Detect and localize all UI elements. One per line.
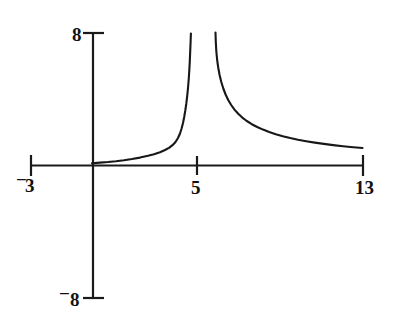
plot-canvas: − 3 5 13 8 − 8 xyxy=(0,0,396,334)
y-tick-label-8: 8 xyxy=(72,24,82,45)
curve-right-branch xyxy=(216,33,363,149)
curve-left-branch xyxy=(92,34,191,164)
x-tick-label-13: 13 xyxy=(355,177,374,198)
x-tick-label-5: 5 xyxy=(191,177,201,198)
y-tick-label-neg8: − 8 xyxy=(59,283,80,310)
graph-figure: − 3 5 13 8 − 8 xyxy=(0,0,396,334)
x-tick-neg3-value: 3 xyxy=(25,175,35,196)
y-tick-neg8-value: 8 xyxy=(70,289,80,310)
y-tick-neg8-sign: − xyxy=(59,283,70,304)
